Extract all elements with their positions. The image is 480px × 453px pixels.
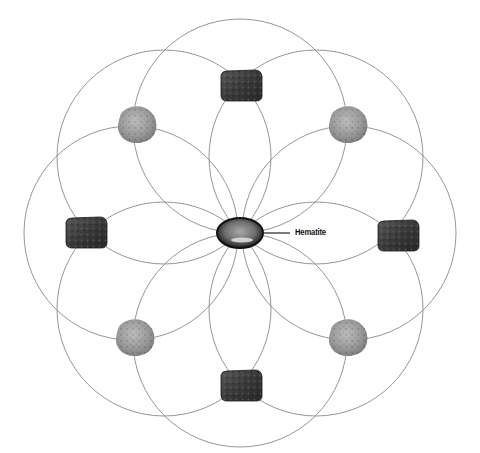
stone-bottom-left — [116, 319, 155, 356]
grid-circle — [24, 126, 238, 340]
stone-top — [221, 70, 262, 101]
hematite-center-stone — [217, 218, 263, 248]
grid-circle — [133, 233, 347, 447]
stone-bottom-right — [329, 319, 368, 356]
crystal-grid-diagram: Hematite — [0, 0, 480, 453]
stone-bottom — [221, 370, 262, 401]
stone-left — [66, 217, 107, 248]
center-stone-layer — [217, 218, 263, 248]
grid-circle — [133, 19, 347, 233]
stone-right — [378, 220, 419, 251]
stone-top-left — [118, 106, 157, 143]
crystal-grid-svg — [0, 0, 480, 453]
stone-top-right — [329, 106, 368, 143]
hematite-label: Hematite — [295, 227, 326, 237]
